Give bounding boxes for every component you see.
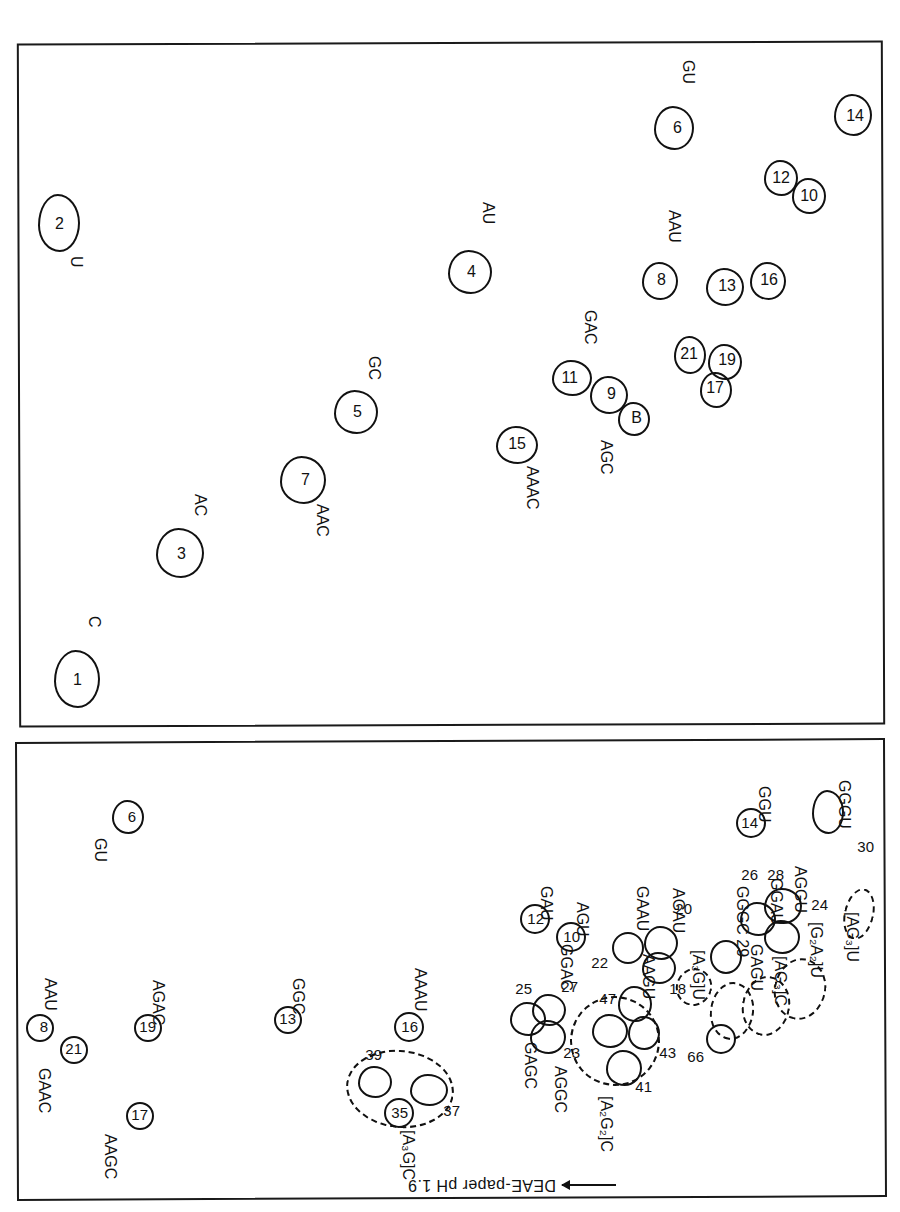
spot-number-10-bottom: 10 [800,188,818,204]
axis-label-deae-paper: DEAE-paper pH 1.9 [196,1168,616,1202]
spot-number-6-top: 6 [128,809,136,824]
spot-number-17-bottom: 17 [706,380,724,396]
spot-number-30: 30 [857,839,874,854]
spot-number-21-bottom: 21 [680,346,698,362]
spot-label-gu-top: GU [92,838,108,862]
axis-label-text: DEAE-paper pH 1.9 [408,1176,556,1194]
spot-label-aggc: AGGC [552,1066,568,1113]
spot-number-8-top: 8 [40,1019,48,1034]
spot-label-ac: AC [192,494,208,516]
spot-number-39: 39 [365,1047,382,1062]
spot-label-c: C [86,616,102,628]
spot-number-b: B [631,410,642,426]
spot-number-1: 1 [73,672,82,688]
spot-number-16-top: 16 [401,1019,418,1034]
spot-label-aaac: AAAC [524,466,540,510]
bracket-label-g2a2u: [G₂A₂]U [808,922,824,978]
spot-number-3: 3 [177,546,186,562]
spot-number-43: 43 [659,1045,676,1060]
bracket-label-ag3u: [AG₃]U [844,912,860,962]
figure-canvas: 30 GGGU 24 [AG₃]U [G₂A₂]U [AG₃]C AGGU 28… [0,0,900,1212]
spot-number-4: 4 [467,264,476,280]
spot-37 [410,1074,448,1106]
spot-number-2: 2 [55,216,64,232]
spot-label-gagc: GAGC [522,1042,538,1089]
spot-label-au: AU [480,202,496,224]
spot-number-19-bottom: 19 [718,352,736,368]
spot-label-agu: AGU [574,902,590,937]
spot-label-agac: AGAC [150,980,166,1025]
spot-number-66: 66 [687,1049,704,1064]
spot-label-aagc: AAGC [102,1134,118,1179]
spot-number-14-bottom: 14 [846,108,864,124]
spot-label-aaau: AAAU [412,968,428,1012]
bracket-label-ag3c: [AG₃]C [772,956,788,1006]
spot-label-ggc: GGC [290,978,306,1014]
spot-number-11: 11 [561,370,578,386]
spot-label-agc: AGC [598,440,614,475]
spot-label-gggu: GGGU [836,780,852,829]
spot-label-gc: GC [366,356,382,380]
spot-66 [706,1024,736,1054]
spot-label-gac: GAC [582,310,598,345]
spot-39 [358,1066,392,1098]
axis-arrow-icon [562,1184,616,1186]
spot-43 [628,1016,660,1050]
spot-label-aagu: AAGU [640,954,656,999]
spot-number-26: 26 [741,867,758,882]
spot-number-24: 24 [811,897,828,912]
bracket-label-a3gu: [A₃G]U [690,950,706,1000]
spot-number-5: 5 [353,404,362,420]
spot-label-aau-top: AAU [42,978,58,1011]
spot-number-18: 18 [669,981,686,996]
spot-number-13-bottom: 13 [718,278,736,294]
spot-label-u: U [68,256,84,268]
spot-47 [592,1014,628,1048]
spot-number-12-bottom: 12 [772,170,790,186]
spot-label-gggc: GGGC 29 [734,886,750,957]
spot-label-gaac: GAAC [36,1068,52,1113]
spot-number-15: 15 [508,436,526,452]
spot-number-23: 23 [563,1045,580,1060]
spot-number-47: 47 [599,991,616,1006]
spot-label-aau-bottom: AAU [666,210,682,243]
spot-label-aac: AAC [314,504,330,537]
lower-fingerprint-panel [17,40,885,727]
spot-label-agau: AGAU [670,888,686,933]
spot-number-21-top: 21 [65,1041,82,1056]
spot-label-ggu-top: GGU [756,786,772,822]
spot-number-16-bottom: 16 [760,272,778,288]
spot-number-6-bottom: 6 [673,120,682,136]
spot-label-gaau: GAAU [634,886,650,931]
spot-number-9: 9 [607,386,616,402]
spot-number-41: 41 [635,1079,652,1094]
spot-27 [532,994,566,1026]
spot-number-17-top: 17 [131,1107,148,1122]
spot-number-25: 25 [515,981,532,996]
bracket-label-a2g2c: [A₂G₂]C [598,1096,614,1152]
spot-number-7: 7 [301,472,310,488]
spot-number-37: 37 [443,1103,460,1118]
spot-number-8-bottom: 8 [657,272,666,288]
spot-number-22: 22 [591,955,608,970]
spot-number-35: 35 [391,1105,408,1120]
spot-label-gau: GAU [538,886,554,921]
spot-label-gu-bottom: GU [680,60,696,84]
